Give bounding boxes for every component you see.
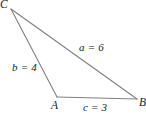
side-label-b: b = 4 bbox=[12, 62, 37, 73]
triangle-figure: C A B b = 4 a = 6 c = 3 bbox=[0, 0, 146, 118]
side-a-line bbox=[11, 9, 137, 99]
vertex-label-a: A bbox=[51, 100, 58, 112]
vertex-label-c: C bbox=[0, 0, 8, 11]
vertex-label-b: B bbox=[139, 97, 146, 109]
side-c-line bbox=[57, 97, 137, 99]
side-label-c: c = 3 bbox=[83, 102, 107, 113]
triangle-drawing bbox=[0, 0, 146, 118]
side-b-line bbox=[11, 9, 57, 97]
side-label-a: a = 6 bbox=[79, 42, 104, 53]
